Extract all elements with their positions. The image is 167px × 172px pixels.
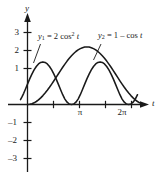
- plot-canvas: [0, 0, 167, 172]
- annotation-y2-argument: t: [140, 30, 142, 40]
- curve-y1-2cos-squared-t: [21, 62, 138, 105]
- curve-y2-1-minus-cos-t: [28, 47, 142, 105]
- x-tick-label-2pi: 2π: [112, 108, 132, 117]
- x-axis-arrowhead-icon: [140, 101, 149, 108]
- annotation-y1-argument: t: [75, 31, 80, 41]
- leader-line-y1: [34, 44, 41, 63]
- leader-line-y2: [94, 44, 102, 60]
- annotation-y2-operator: = 1 – cos: [105, 30, 140, 40]
- y-tick-label-minus-2: –2: [3, 136, 17, 145]
- y-tick-label-minus-3: –3: [3, 154, 17, 163]
- annotation-y1-operator: = 2 cos: [45, 31, 72, 41]
- y-axis-arrowhead-icon: [24, 13, 31, 22]
- annotation-y2-equation: y2 = 1 – cos t: [98, 31, 142, 40]
- y-tick-label-3: 3: [5, 28, 19, 37]
- x-axis-label: t: [152, 99, 155, 108]
- y-tick-label-1: 1: [5, 64, 19, 73]
- x-tick-label-pi: π: [70, 108, 90, 117]
- annotation-y1-equation: y1 = 2 cos2 t: [38, 31, 79, 41]
- y-axis-label: y: [25, 4, 29, 13]
- figure-graph-of-two-trig-curves: y t 3 2 1 –1 –2 –3 π 2π y1 = 2 cos2 t y2…: [0, 0, 167, 172]
- y-tick-label-minus-1: –1: [3, 118, 17, 127]
- y-tick-label-2: 2: [5, 46, 19, 55]
